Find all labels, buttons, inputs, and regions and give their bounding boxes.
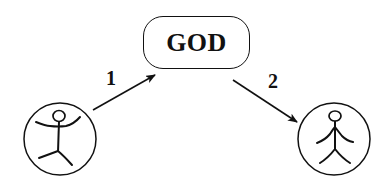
arrow-1 — [93, 75, 155, 110]
arrow-2-label: 2 — [268, 71, 278, 91]
god-node-label: GOD — [166, 30, 227, 56]
person-left-icon — [24, 103, 96, 175]
person-right-icon — [298, 103, 370, 175]
arrow-2 — [233, 80, 297, 122]
god-node: GOD — [143, 16, 250, 69]
arrow-1-label: 1 — [106, 68, 116, 88]
diagram-canvas: GOD 1 2 — [0, 0, 392, 189]
